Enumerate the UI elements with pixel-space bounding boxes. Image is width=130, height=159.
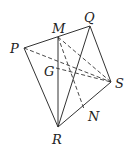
label-N: N <box>87 109 100 124</box>
label-G: G <box>44 64 54 79</box>
label-M: M <box>51 21 66 36</box>
label-R: R <box>51 132 62 147</box>
tetrahedron-diagram: P M Q G S N R <box>0 0 130 159</box>
edge-QS <box>90 26 111 82</box>
label-S: S <box>115 76 124 91</box>
edge-PS <box>24 48 111 82</box>
label-P: P <box>9 41 19 56</box>
edge-PR <box>24 48 58 127</box>
edge-QR <box>58 26 90 127</box>
edge-RS <box>58 82 111 127</box>
label-Q: Q <box>84 10 95 25</box>
